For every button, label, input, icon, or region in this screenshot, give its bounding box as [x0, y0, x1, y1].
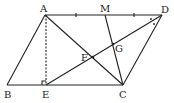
label-C: C [119, 89, 127, 100]
geometry-diagram: A M D G F B E C [0, 0, 174, 103]
segment-CD [123, 15, 162, 85]
label-B: B [4, 89, 11, 100]
segment-AC [45, 15, 123, 85]
point-F [92, 56, 95, 59]
point-G [112, 43, 115, 46]
label-F: F [81, 52, 88, 63]
label-D: D [161, 4, 169, 15]
diagram-canvas: A M D G F B E C [0, 0, 174, 103]
right-angle-marker-E [42, 81, 46, 85]
segment-DE [46, 15, 162, 85]
label-G: G [115, 43, 123, 54]
angle-dot-2 [153, 23, 155, 25]
label-M: M [100, 3, 110, 14]
label-A: A [39, 3, 48, 14]
angle-dot-1 [150, 18, 152, 20]
segment-AB [7, 15, 45, 85]
label-E: E [42, 89, 49, 100]
